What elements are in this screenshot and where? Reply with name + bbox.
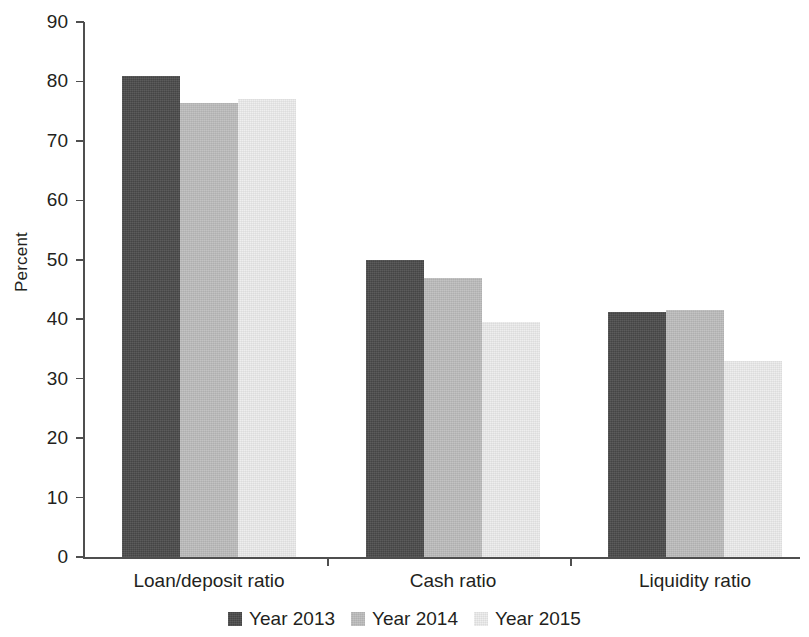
legend-swatch-icon <box>474 612 488 626</box>
y-axis-tick-label: 0 <box>8 547 68 566</box>
y-axis-tick-label: 20 <box>8 428 68 447</box>
y-axis-tick-label: 50 <box>8 250 68 269</box>
y-axis-tick <box>76 437 84 439</box>
y-axis-tick-label: 40 <box>8 309 68 328</box>
bar <box>666 310 724 557</box>
bar <box>482 322 540 557</box>
y-axis-tick <box>76 21 84 23</box>
y-axis-tick <box>76 81 84 83</box>
y-axis-tick-label: 30 <box>8 369 68 388</box>
x-axis-category-label: Cash ratio <box>313 570 593 592</box>
y-axis-tick-label: 80 <box>8 71 68 90</box>
y-axis-line <box>83 22 85 558</box>
x-axis-tick <box>570 558 572 566</box>
legend-item[interactable]: Year 2015 <box>474 608 581 630</box>
bar <box>724 361 782 557</box>
chart-legend: Year 2013Year 2014Year 2015 <box>0 608 809 630</box>
legend-label: Year 2015 <box>495 608 581 630</box>
y-axis-tick <box>76 200 84 202</box>
y-axis-tick-label: 60 <box>8 190 68 209</box>
legend-item[interactable]: Year 2014 <box>351 608 458 630</box>
bar-chart: Percent 0102030405060708090 Loan/deposit… <box>0 0 809 637</box>
legend-label: Year 2014 <box>372 608 458 630</box>
y-axis-tick <box>76 259 84 261</box>
y-axis-tick <box>76 497 84 499</box>
y-axis-tick <box>76 318 84 320</box>
bar <box>424 278 482 557</box>
bar <box>608 312 666 558</box>
legend-label: Year 2013 <box>249 608 335 630</box>
bar <box>180 103 238 557</box>
y-axis-tick-label: 90 <box>8 12 68 31</box>
y-axis-tick-label: 70 <box>8 131 68 150</box>
x-axis-category-label: Loan/deposit ratio <box>69 570 349 592</box>
x-axis-tick <box>327 558 329 566</box>
bar <box>366 260 424 557</box>
legend-item[interactable]: Year 2013 <box>228 608 335 630</box>
y-axis-tick <box>76 140 84 142</box>
legend-swatch-icon <box>351 612 365 626</box>
x-axis-category-label: Liquidity ratio <box>555 570 809 592</box>
bar <box>122 76 180 558</box>
bar <box>238 99 296 557</box>
x-axis-line <box>83 557 800 559</box>
y-axis-tick <box>76 378 84 380</box>
legend-swatch-icon <box>228 612 242 626</box>
y-axis-tick-label: 10 <box>8 488 68 507</box>
